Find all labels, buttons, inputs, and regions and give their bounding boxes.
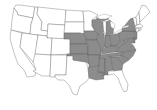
state-rhode-island (139, 28, 141, 31)
state-kansas (70, 44, 88, 54)
state-colorado (51, 38, 70, 55)
lake-superior (96, 14, 112, 19)
state-new-mexico (50, 55, 67, 77)
state-north-dakota (65, 10, 84, 22)
state-south-dakota (64, 22, 84, 34)
state-utah (35, 35, 52, 55)
state-connecticut (136, 28, 139, 32)
state-florida (108, 70, 128, 92)
state-arizona (33, 54, 51, 76)
state-iowa (84, 31, 98, 40)
state-wyoming (47, 24, 65, 39)
state-maine (139, 5, 150, 22)
us-map (0, 0, 157, 110)
